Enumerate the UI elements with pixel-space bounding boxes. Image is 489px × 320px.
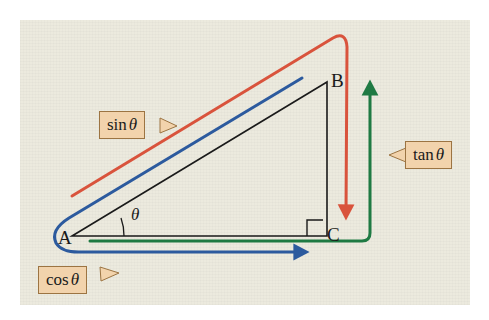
vertex-label-b: B (331, 71, 344, 90)
figure-root: A B C θ sinθ cosθ tanθ (0, 0, 489, 320)
callout-cos-fn: cos (46, 270, 69, 289)
callout-sin-arg: θ (127, 115, 137, 134)
cos-tail (100, 267, 119, 281)
triangle-outline (72, 82, 327, 236)
sin-callout-tail-icon (160, 118, 177, 133)
sin-tail (160, 118, 177, 133)
cos-segment (55, 78, 303, 252)
callout-sin: sinθ (99, 111, 145, 139)
angle-label-theta: θ (131, 206, 139, 223)
callout-tan: tanθ (405, 141, 452, 169)
callout-sin-fn: sin (107, 115, 127, 134)
cos-path (55, 78, 303, 252)
vertex-label-a: A (58, 228, 72, 247)
callout-cos-arg: θ (69, 270, 79, 289)
triangle-path (72, 82, 327, 236)
callout-tan-fn: tan (413, 145, 434, 164)
angle-arc (121, 218, 124, 236)
callout-tan-arg: θ (434, 145, 444, 164)
cos-callout-tail-icon (100, 267, 119, 281)
tan-tail (389, 148, 406, 162)
vertex-label-c: C (327, 225, 340, 244)
right-angle-square (307, 220, 323, 236)
right-angle-marker-icon (307, 220, 323, 236)
tan-callout-tail-icon (389, 148, 406, 162)
angle-arc-icon (121, 218, 124, 236)
callout-cos: cosθ (38, 266, 87, 294)
